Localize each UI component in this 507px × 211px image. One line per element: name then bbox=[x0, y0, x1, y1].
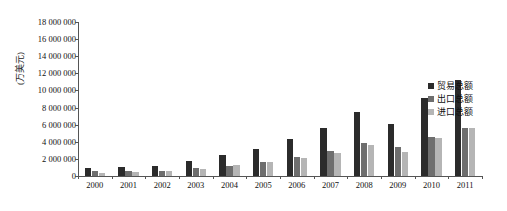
bar-group bbox=[320, 22, 340, 176]
x-axis-tick-label: 2010 bbox=[416, 180, 448, 190]
bar bbox=[354, 112, 360, 176]
bar-group bbox=[118, 22, 138, 176]
bar bbox=[334, 153, 340, 176]
y-axis-tick-label: 18 000 000 bbox=[18, 18, 76, 27]
bar-group bbox=[253, 22, 273, 176]
y-axis-tick-mark bbox=[75, 39, 78, 40]
y-axis-tick-label: 4 000 000 bbox=[18, 138, 76, 147]
legend-item[interactable]: 出口总额 bbox=[428, 93, 473, 105]
y-axis-tick-mark bbox=[75, 159, 78, 160]
y-axis-tick-mark bbox=[75, 73, 78, 74]
y-axis-tick-label: 0 bbox=[18, 172, 76, 181]
x-axis-tick-mark bbox=[347, 176, 348, 179]
y-axis-tick-label: 8 000 000 bbox=[18, 104, 76, 113]
x-axis-tick-mark bbox=[482, 176, 483, 179]
bar bbox=[287, 139, 293, 176]
bar bbox=[125, 171, 131, 176]
bar-group bbox=[354, 22, 374, 176]
bar bbox=[186, 161, 192, 176]
x-axis-tick-mark bbox=[280, 176, 281, 179]
bar bbox=[402, 152, 408, 176]
bar bbox=[85, 168, 91, 176]
bar bbox=[132, 172, 138, 176]
x-axis-tick-mark bbox=[112, 176, 113, 179]
bar bbox=[462, 128, 468, 176]
y-axis-line bbox=[78, 22, 79, 176]
bar bbox=[327, 151, 333, 176]
bar bbox=[361, 143, 367, 176]
bar bbox=[421, 98, 427, 176]
x-axis-tick-label: 2001 bbox=[113, 180, 145, 190]
legend-item-label: 贸易总额 bbox=[437, 82, 473, 91]
bar bbox=[395, 147, 401, 176]
legend-swatch-icon bbox=[428, 109, 434, 115]
y-axis-tick-label: 12 000 000 bbox=[18, 69, 76, 78]
bar bbox=[267, 162, 273, 176]
bar bbox=[435, 138, 441, 177]
bar-group bbox=[85, 22, 105, 176]
bar bbox=[159, 171, 165, 176]
x-axis-tick-label: 2000 bbox=[79, 180, 111, 190]
bar bbox=[294, 157, 300, 176]
legend-swatch-icon bbox=[428, 83, 434, 89]
y-axis-tick-label: 2 000 000 bbox=[18, 155, 76, 164]
y-axis-tick-mark bbox=[75, 125, 78, 126]
x-axis-tick-mark bbox=[381, 176, 382, 179]
x-axis-tick-label: 2009 bbox=[382, 180, 414, 190]
bar bbox=[301, 158, 307, 176]
x-axis-tick-label: 2011 bbox=[449, 180, 481, 190]
x-axis-tick-label: 2002 bbox=[146, 180, 178, 190]
x-axis-tick-mark bbox=[78, 176, 79, 179]
bar bbox=[200, 169, 206, 176]
x-axis-tick-mark bbox=[448, 176, 449, 179]
bar bbox=[253, 149, 259, 176]
x-axis-tick-label: 2006 bbox=[281, 180, 313, 190]
y-axis-tick-mark bbox=[75, 56, 78, 57]
bar bbox=[233, 165, 239, 176]
x-axis-tick-mark bbox=[246, 176, 247, 179]
x-axis-tick-label: 2005 bbox=[247, 180, 279, 190]
x-axis-tick-label: 2008 bbox=[348, 180, 380, 190]
y-axis-tick-mark bbox=[75, 90, 78, 91]
bar bbox=[469, 128, 475, 176]
x-axis-tick-mark bbox=[213, 176, 214, 179]
y-axis-tick-mark bbox=[75, 108, 78, 109]
bar-group bbox=[219, 22, 239, 176]
bar bbox=[388, 124, 394, 176]
x-axis-tick-label: 2004 bbox=[214, 180, 246, 190]
legend-item-label: 出口总额 bbox=[437, 95, 473, 104]
x-axis-tick-label: 2007 bbox=[315, 180, 347, 190]
bar-group bbox=[152, 22, 172, 176]
x-axis-tick-mark bbox=[145, 176, 146, 179]
plot-area: 2000200120022003200420052006200720082009… bbox=[78, 22, 482, 176]
legend-swatch-icon bbox=[428, 96, 434, 102]
y-axis-tick-mark bbox=[75, 142, 78, 143]
bar bbox=[92, 171, 98, 176]
x-axis-tick-mark bbox=[314, 176, 315, 179]
legend-item[interactable]: 贸易总额 bbox=[428, 80, 473, 92]
bar bbox=[166, 171, 172, 176]
bar-chart: (万美元) 18 000 00016 000 00014 000 00012 0… bbox=[0, 0, 507, 211]
y-axis-tick-label: 16 000 000 bbox=[18, 35, 76, 44]
legend-item-label: 进口总额 bbox=[437, 108, 473, 117]
y-axis-tick-label: 10 000 000 bbox=[18, 86, 76, 95]
bar bbox=[193, 168, 199, 176]
bar bbox=[320, 128, 326, 176]
y-axis-tick-label: 6 000 000 bbox=[18, 121, 76, 130]
bar bbox=[428, 137, 434, 176]
bar bbox=[260, 162, 266, 176]
x-axis-tick-mark bbox=[179, 176, 180, 179]
legend: 贸易总额出口总额进口总额 bbox=[428, 80, 473, 119]
y-axis-tick-label: 14 000 000 bbox=[18, 52, 76, 61]
x-axis-tick-label: 2003 bbox=[180, 180, 212, 190]
bar-group bbox=[287, 22, 307, 176]
legend-item[interactable]: 进口总额 bbox=[428, 106, 473, 118]
bar bbox=[368, 145, 374, 176]
bar-group bbox=[186, 22, 206, 176]
bar bbox=[118, 167, 124, 176]
bar bbox=[99, 173, 105, 176]
bar-group bbox=[388, 22, 408, 176]
bar bbox=[219, 155, 225, 176]
bar bbox=[226, 166, 232, 176]
y-axis-tick-labels: 18 000 00016 000 00014 000 00012 000 000… bbox=[14, 0, 76, 211]
